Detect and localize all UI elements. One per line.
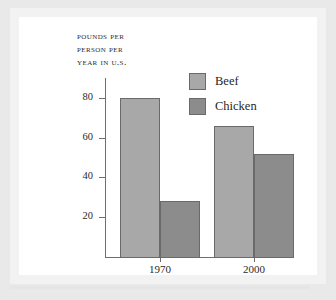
page-shadow [10,286,310,292]
y-axis-tick [99,177,106,178]
y-axis-tick [99,98,106,99]
y-axis-tick-label: 60 [67,131,93,142]
x-axis-tick [160,258,161,262]
x-axis-label-1970: 1970 [130,263,190,275]
bar-beef-2000 [214,126,254,258]
y-axis-tick [99,217,106,218]
x-axis-tick [254,258,255,262]
y-axis-tick [99,138,106,139]
y-axis-tick-label: 40 [67,170,93,181]
bar-chicken-1970 [160,201,200,258]
y-axis-tick-label: 20 [67,210,93,221]
plot-area: 20406080 19702000 [19,17,317,275]
y-axis-tick-label: 80 [67,91,93,102]
bar-chicken-2000 [254,154,294,258]
x-axis-label-2000: 2000 [224,263,284,275]
figure-frame: Pounds per person per year in U.S. Beef … [10,8,326,284]
bar-beef-1970 [120,98,160,258]
y-axis-line [105,78,106,258]
figure-panel: Pounds per person per year in U.S. Beef … [19,17,317,275]
